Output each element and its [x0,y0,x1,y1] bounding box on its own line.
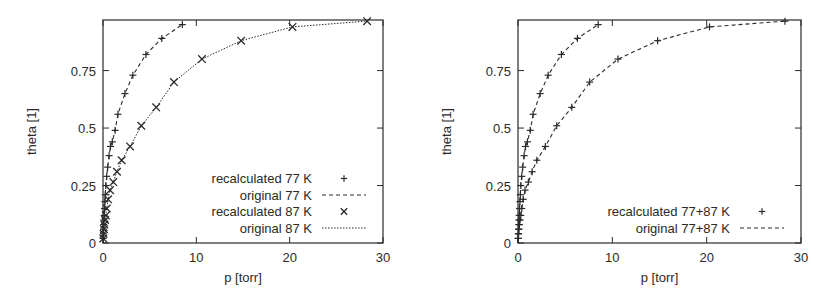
left-y-tick-label: 0 [89,236,96,251]
left-legend-label: original 87 K [240,221,313,236]
right-legend-label: original 77+87 K [636,221,731,236]
right-point-recalculated-77-87-k [533,157,540,164]
left-point-recalculated-77-k [104,164,111,171]
right-x-tick-label: 10 [605,250,619,265]
left-point-recalculated-87-k [237,37,245,45]
right-x-tick-label: 30 [794,250,808,265]
left-point-recalculated-77-k [129,72,136,79]
right-point-recalculated-77-87-k [545,72,552,79]
left-point-recalculated-77-k [114,111,121,118]
left-point-recalculated-87-k [170,78,178,86]
left-y-tick-label: 0.75 [71,64,96,79]
left-legend-label: original 77 K [240,188,313,203]
left-y-axis-label: theta [1] [24,108,39,155]
left-point-recalculated-77-k [179,21,186,28]
left-axis-ticks: 010203000.250.50.75 [71,20,391,265]
left-point-recalculated-87-k [113,168,121,176]
right-y-tick-label: 0 [504,236,511,251]
right-point-recalculated-77-87-k [542,143,549,150]
left-point-recalculated-77-k [158,35,165,42]
left-point-recalculated-77-k [121,90,128,97]
right-point-recalculated-77-87-k [558,51,565,58]
right-legend: recalculated 77+87 Koriginal 77+87 K [607,204,784,236]
right-point-recalculated-77-87-k [574,35,581,42]
left-x-tick-label: 30 [376,250,390,265]
left-point-recalculated-87-k [106,186,114,194]
right-point-recalculated-77-87-k [527,127,534,134]
right-point-recalculated-77-87-k [518,173,525,180]
right-point-recalculated-77-87-k [521,152,528,159]
right-point-recalculated-77-87-k [530,111,537,118]
left-point-recalculated-87-k [118,156,126,164]
right-chart-panel: 010203000.250.50.75 p [torr] theta [1] r… [439,18,808,285]
left-legend-label: recalculated 77 K [212,171,313,186]
left-x-axis-label: p [torr] [224,270,262,285]
right-y-tick-label: 0.5 [493,121,511,136]
right-point-recalculated-77-87-k [529,168,536,175]
left-legend-label: recalculated 87 K [212,204,313,219]
right-x-axis-label: p [torr] [641,270,679,285]
right-point-recalculated-77-87-k [519,164,526,171]
right-legend-label: recalculated 77+87 K [607,204,730,219]
left-x-tick-label: 10 [189,250,203,265]
right-x-tick-label: 20 [699,250,713,265]
right-point-recalculated-77-87-k [522,187,529,194]
right-point-recalculated-77-87-k [537,90,544,97]
left-chart-panel: 010203000.250.50.75 p [torr] theta [1] r… [24,17,390,285]
right-point-recalculated-77-87-k [654,37,661,44]
figure: 010203000.250.50.75 p [torr] theta [1] r… [0,0,832,304]
left-point-recalculated-87-k [109,178,117,186]
left-legend-sample-marker [341,208,347,214]
left-point-recalculated-87-k [126,143,134,151]
left-x-tick-label: 0 [99,250,106,265]
left-y-tick-label: 0.25 [71,179,96,194]
left-point-recalculated-77-k [112,127,119,134]
right-y-axis-label: theta [1] [439,108,454,155]
right-point-recalculated-77-87-k [595,21,602,28]
left-legend-sample-marker [341,175,347,181]
right-point-recalculated-77-87-k [516,221,523,228]
left-point-recalculated-87-k [137,122,145,130]
right-point-recalculated-77-87-k [568,104,575,111]
right-y-tick-label: 0.75 [486,64,511,79]
left-legend: recalculated 77 Koriginal 77 Krecalculat… [212,171,366,236]
left-point-recalculated-87-k [198,55,206,63]
right-point-recalculated-77-87-k [525,179,532,186]
left-point-recalculated-77-k [106,152,113,159]
right-point-recalculated-77-87-k [781,18,788,25]
right-legend-sample-marker [759,208,765,214]
left-x-tick-label: 20 [282,250,296,265]
left-y-tick-label: 0.5 [78,121,96,136]
right-x-tick-label: 0 [514,250,521,265]
right-y-tick-label: 0.25 [486,179,511,194]
left-point-recalculated-87-k [152,104,160,112]
